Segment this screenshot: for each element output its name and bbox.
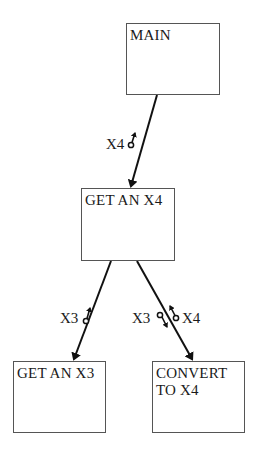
module-main: MAIN bbox=[126, 23, 220, 95]
couple-label-x3: X3 bbox=[60, 310, 78, 326]
module-label: MAIN bbox=[130, 27, 219, 44]
call-arrow-main-to-get-an-x4 bbox=[131, 95, 157, 186]
couple-label-x3: X3 bbox=[132, 310, 150, 326]
data-couple-x4-up-icon bbox=[128, 133, 135, 148]
data-couple-x3-down-icon bbox=[157, 312, 167, 327]
call-arrow-get-an-x4-to-get-an-x3 bbox=[74, 261, 111, 359]
module-label: CONVERT TO X4 bbox=[156, 365, 244, 399]
module-get-an-x4: GET AN X4 bbox=[81, 188, 175, 261]
couple-label-x4: X4 bbox=[182, 310, 200, 326]
couple-label-x4: X4 bbox=[106, 136, 124, 152]
structure-chart: MAIN GET AN X4 GET AN X3 CONVERT TO X4 X… bbox=[0, 0, 260, 457]
data-couple-x4-up-icon bbox=[170, 306, 179, 321]
data-couple-x3-up-icon bbox=[83, 308, 90, 324]
module-label: GET AN X4 bbox=[85, 192, 174, 209]
module-convert-to-x4: CONVERT TO X4 bbox=[152, 361, 245, 433]
module-get-an-x3: GET AN X3 bbox=[13, 361, 106, 433]
module-label: GET AN X3 bbox=[17, 365, 105, 382]
